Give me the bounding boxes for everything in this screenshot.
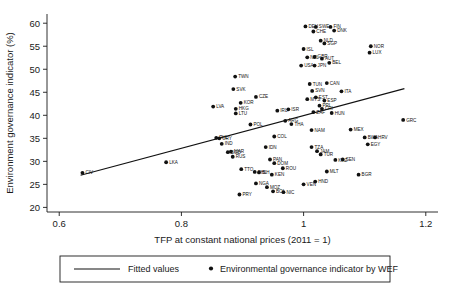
data-point-marker[interactable] [329, 25, 333, 29]
data-point-marker[interactable] [275, 109, 279, 113]
data-point-marker[interactable] [253, 170, 257, 174]
data-point-marker[interactable] [239, 167, 243, 171]
data-point-marker[interactable] [254, 95, 258, 99]
data-point-marker[interactable] [313, 55, 317, 59]
data-point-marker[interactable] [325, 170, 329, 174]
data-point-label: BIH [262, 170, 270, 175]
y-tick-label: 25 [29, 179, 40, 190]
data-point-marker[interactable] [314, 95, 318, 99]
data-point-label: TUN [313, 82, 322, 87]
data-point-label: BEL [332, 60, 341, 65]
data-point-marker[interactable] [333, 158, 337, 162]
y-tick-label: 45 [29, 87, 40, 98]
data-point-marker[interactable] [315, 149, 319, 153]
data-point-marker[interactable] [304, 25, 308, 29]
data-point-marker[interactable] [226, 150, 230, 154]
data-point-label: IDN [269, 145, 277, 150]
y-tick-label: 35 [29, 133, 40, 144]
x-tick-label: 1.2 [419, 218, 432, 229]
data-point-marker[interactable] [270, 173, 274, 177]
data-point-marker[interactable] [311, 30, 315, 34]
data-point-marker[interactable] [319, 39, 323, 43]
data-point-marker[interactable] [368, 51, 372, 55]
data-point-marker[interactable] [220, 142, 224, 146]
data-point-label: SVK [236, 87, 246, 92]
data-point-label: EGY [371, 142, 381, 147]
data-point-label: RUS [236, 154, 246, 159]
data-point-marker[interactable] [310, 128, 314, 132]
data-point-marker[interactable] [366, 142, 370, 146]
data-point-marker[interactable] [357, 173, 361, 177]
data-point-marker[interactable] [272, 161, 276, 165]
data-point-label: DNK [337, 28, 348, 33]
data-point-label: BGR [362, 172, 373, 177]
data-point-marker[interactable] [327, 61, 331, 65]
data-point-marker[interactable] [332, 29, 336, 33]
data-point-label: CRI [325, 106, 333, 111]
y-tick-label: 50 [29, 64, 40, 75]
data-point-marker[interactable] [330, 111, 334, 115]
data-point-marker[interactable] [401, 118, 405, 122]
data-point-marker[interactable] [313, 64, 317, 68]
data-point-marker[interactable] [340, 89, 344, 93]
data-point-marker[interactable] [211, 105, 215, 109]
data-point-marker[interactable] [265, 185, 269, 189]
data-point-label: LTU [239, 111, 247, 116]
data-point-marker[interactable] [319, 153, 323, 157]
data-point-marker[interactable] [233, 75, 237, 79]
data-point-marker[interactable] [234, 112, 238, 116]
data-point-marker[interactable] [310, 89, 314, 93]
data-point-marker[interactable] [341, 158, 345, 162]
data-point-marker[interactable] [305, 55, 309, 59]
data-point-marker[interactable] [310, 145, 314, 149]
data-point-label: HND [318, 179, 329, 184]
data-point-label: NIC [286, 190, 295, 195]
data-point-marker[interactable] [272, 135, 276, 139]
data-point-label: NOR [374, 44, 385, 49]
data-point-label: GRC [406, 118, 417, 123]
data-point-marker[interactable] [282, 190, 286, 194]
data-point-marker[interactable] [313, 180, 317, 184]
data-point-marker[interactable] [318, 104, 322, 108]
data-point-marker[interactable] [325, 81, 329, 85]
data-point-marker[interactable] [286, 107, 290, 111]
data-point-marker[interactable] [234, 107, 238, 111]
data-point-marker[interactable] [322, 99, 326, 103]
data-point-label: KOR [244, 100, 255, 105]
data-point-marker[interactable] [271, 189, 275, 193]
data-point-marker[interactable] [264, 145, 268, 149]
data-point-marker[interactable] [249, 123, 253, 127]
data-point-marker[interactable] [320, 57, 324, 61]
legend-label-fitted: Fitted values [128, 264, 180, 274]
data-point-marker[interactable] [283, 119, 287, 123]
data-point-marker[interactable] [349, 128, 353, 132]
data-point-marker[interactable] [311, 110, 315, 114]
data-point-marker[interactable] [369, 44, 373, 48]
data-point-marker[interactable] [81, 171, 85, 175]
data-point-marker[interactable] [239, 101, 243, 105]
data-point-marker[interactable] [289, 122, 293, 126]
data-point-label: POL [253, 122, 263, 127]
data-point-label: JPN [318, 63, 327, 68]
data-point-marker[interactable] [254, 182, 258, 186]
data-point-label: SVN [315, 88, 324, 93]
data-point-marker[interactable] [302, 47, 306, 51]
y-tick-label: 30 [29, 156, 40, 167]
data-point-marker[interactable] [257, 171, 261, 175]
data-point-marker[interactable] [214, 136, 218, 140]
data-point-marker[interactable] [363, 136, 367, 140]
x-axis-title: TFP at constant national prices (2011 = … [154, 234, 330, 245]
data-point-marker[interactable] [302, 182, 306, 186]
data-point-marker[interactable] [308, 82, 312, 86]
data-point-label: ISR [291, 107, 299, 112]
data-point-marker[interactable] [322, 42, 326, 46]
data-point-marker[interactable] [281, 166, 285, 170]
data-point-marker[interactable] [231, 87, 235, 91]
data-point-marker[interactable] [305, 97, 309, 101]
data-point-marker[interactable] [238, 193, 242, 197]
data-point-marker[interactable] [268, 158, 272, 162]
data-point-marker[interactable] [231, 155, 235, 159]
data-point-marker[interactable] [164, 160, 168, 164]
data-point-marker[interactable] [299, 64, 303, 68]
data-point-marker[interactable] [373, 136, 377, 140]
